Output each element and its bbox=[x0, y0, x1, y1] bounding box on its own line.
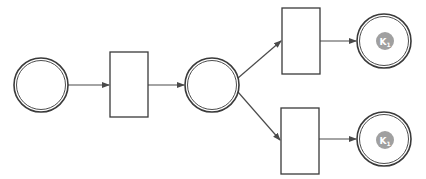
transition-t1[interactable] bbox=[110, 52, 148, 117]
petri-net-diagram: K1 K1 bbox=[0, 0, 426, 179]
transition-t3[interactable] bbox=[281, 108, 319, 174]
place-p3[interactable]: K1 bbox=[357, 14, 411, 68]
place-p2[interactable] bbox=[185, 58, 239, 112]
arc-p2-t2 bbox=[238, 41, 281, 78]
place-p4[interactable]: K1 bbox=[357, 112, 411, 166]
place-p1[interactable] bbox=[14, 58, 68, 112]
transition-t2[interactable] bbox=[282, 8, 320, 74]
token: K1 bbox=[376, 32, 394, 50]
token: K1 bbox=[376, 131, 394, 149]
arc-p2-t3 bbox=[238, 92, 280, 140]
